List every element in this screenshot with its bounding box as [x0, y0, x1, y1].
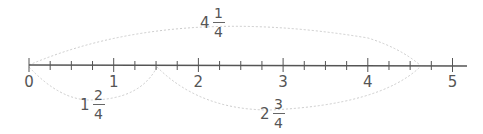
label-4-1-4: 4 14	[200, 6, 225, 39]
number-line-svg	[0, 0, 483, 134]
number-line-diagram: 012345 4 14 1 24 2 34	[0, 0, 483, 134]
tick-label: 3	[278, 75, 288, 90]
axis-line	[29, 65, 467, 66]
tick-label: 0	[24, 75, 34, 90]
tick-label: 1	[109, 75, 119, 90]
label-1-2-4: 1 24	[80, 88, 105, 121]
tick-label: 2	[194, 75, 204, 90]
tick-label: 5	[448, 75, 458, 90]
tick-label: 4	[363, 75, 373, 90]
label-2-3-4: 2 34	[260, 97, 285, 130]
ticks	[29, 58, 453, 72]
